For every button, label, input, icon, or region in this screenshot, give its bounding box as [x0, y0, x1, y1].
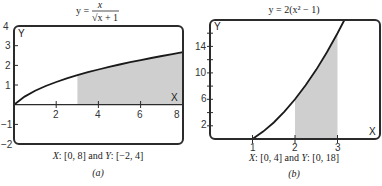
panel-a: 4 3 2 1 −1 −2 2 4 6 8 Y X y = x √x + 1 X…	[1, 0, 183, 179]
caption-a: X: [0, 8] and Y: [−2, 4]	[52, 150, 144, 161]
caption-b: X: [0, 4] and Y: [0, 18]	[248, 152, 339, 163]
y-axis-label-a: Y	[18, 28, 25, 39]
y-tick-label: 3	[5, 40, 11, 51]
shaded-region-b	[295, 33, 338, 139]
chart-title-b: y = 2(x² − 1)	[269, 4, 320, 16]
title-denominator: √x + 1	[92, 12, 118, 23]
y-tick-label: 2	[201, 119, 207, 130]
y-tick-label: −1	[1, 119, 13, 130]
x-tick-label: 2	[53, 109, 59, 120]
y-tick-label: 1	[5, 80, 11, 91]
x-tick-label: 4	[95, 109, 101, 120]
title-numerator: x	[97, 0, 103, 10]
panel-label-b: (b)	[288, 168, 300, 180]
y-tick-label: 10	[195, 67, 207, 78]
y-tick-label: 4	[3, 21, 9, 32]
y-tick-label: 2	[5, 60, 11, 71]
panel-b: 14 10 6 2 1 2 3 Y X y = 2(x² − 1) X: [0,…	[195, 4, 380, 180]
x-axis-label-a: X	[171, 92, 178, 103]
y-tick-label: 14	[195, 41, 207, 52]
y-axis-label-b: Y	[214, 21, 221, 32]
y-tick-label: −2	[1, 139, 13, 150]
chart-title-a: y = x √x + 1	[76, 0, 119, 23]
shaded-region-a	[77, 52, 183, 104]
x-tick-label: 8	[174, 109, 180, 120]
figure: 4 3 2 1 −1 −2 2 4 6 8 Y X y = x √x + 1 X…	[0, 0, 382, 186]
y-tick-label: 6	[201, 93, 207, 104]
x-axis-label-b: X	[369, 126, 376, 137]
title-prefix: y =	[76, 5, 90, 16]
x-tick-label: 6	[137, 109, 143, 120]
panel-label-a: (a)	[92, 167, 104, 179]
